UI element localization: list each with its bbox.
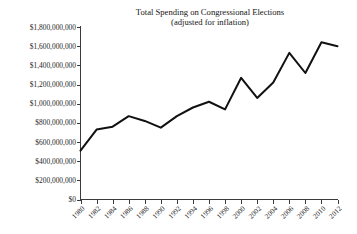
y-tick-label: $800,000,000 (35, 118, 76, 127)
y-tick-label: $600,000,000 (35, 138, 76, 147)
line-chart: Total Spending on Congressional Election… (0, 0, 357, 234)
y-tick-label: $400,000,000 (35, 157, 76, 166)
chart-title-main: Total Spending on Congressional Election… (136, 7, 285, 17)
y-tick-label: $0 (69, 195, 77, 204)
chart-container: Total Spending on Congressional Election… (0, 0, 357, 234)
y-tick-label: $1,800,000,000 (30, 23, 76, 32)
y-tick-label: $1,600,000,000 (30, 42, 76, 51)
y-tick-label: $1,000,000,000 (30, 99, 76, 108)
y-tick-label: $1,200,000,000 (30, 80, 76, 89)
y-tick-label: $1,400,000,000 (30, 61, 76, 70)
chart-title-sub: (adjusted for inflation) (171, 17, 249, 27)
y-tick-label: $200,000,000 (35, 176, 76, 185)
chart-background (0, 0, 357, 234)
